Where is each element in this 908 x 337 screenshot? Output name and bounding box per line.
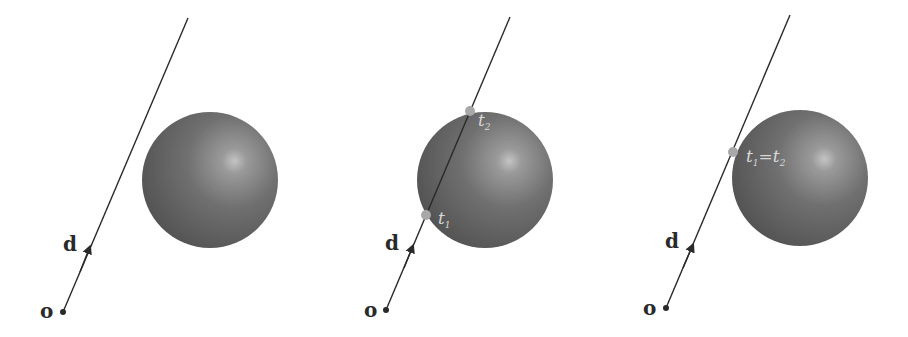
hit-point-t2 [465, 106, 475, 116]
direction-arrow-icon [404, 248, 412, 268]
sphere [732, 110, 868, 246]
origin-label: o [40, 299, 53, 323]
direction-label: d [63, 232, 77, 256]
direction-arrow-icon [683, 247, 692, 268]
direction-label: d [665, 229, 679, 253]
origin-point [383, 307, 389, 313]
origin-point [60, 309, 66, 315]
origin-label: o [364, 298, 377, 322]
direction-arrow-icon [80, 249, 89, 272]
ray-sphere-diagram: o d o d t1 t2 o d t1=t2 [0, 0, 908, 337]
direction-label: d [385, 231, 399, 255]
sphere [142, 112, 278, 248]
panel-two-intersections: o d t1 t2 [364, 17, 553, 322]
tangent-point [728, 147, 738, 157]
panel-miss: o d [40, 18, 278, 323]
hit-point-t1 [421, 210, 431, 220]
origin-label: o [643, 296, 656, 320]
panel-tangent: o d t1=t2 [643, 15, 868, 320]
origin-point [663, 305, 669, 311]
